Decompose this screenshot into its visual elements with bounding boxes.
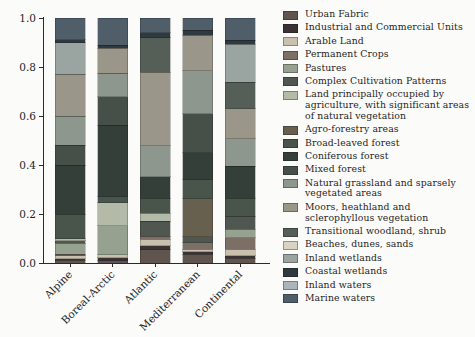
bar-segment (183, 30, 213, 35)
legend-item: Land principally occupied by agriculture… (283, 89, 471, 121)
bar-segment (55, 165, 85, 214)
legend-label: Inland waters (305, 280, 371, 291)
legend-item: Industrial and Commercial Units (283, 22, 471, 33)
bar-segment (183, 249, 213, 252)
legend-label: Beaches, dunes, sands (305, 239, 414, 250)
bar-segment (140, 177, 170, 199)
bar-segment (140, 250, 170, 263)
legend-label: Complex Cultivation Patterns (305, 76, 446, 87)
bar-segment (140, 213, 170, 221)
bar-segment (98, 97, 128, 125)
y-tick-label: 0.6 (19, 110, 36, 122)
x-tick-label: Alpine (41, 268, 74, 301)
bar-segment (225, 249, 255, 255)
legend-item: Marine waters (283, 293, 471, 304)
legend-label: Arable Land (305, 36, 364, 47)
legend-label: Permanent Crops (305, 49, 389, 60)
legend-label: Marine waters (305, 293, 375, 304)
legend-swatch-icon (283, 268, 298, 277)
bar-segment (55, 214, 85, 239)
bar-segment (183, 237, 213, 243)
bar-segment (140, 221, 170, 236)
legend-swatch-icon (283, 228, 298, 237)
bar-segment (183, 35, 213, 71)
legend-swatch-icon (283, 254, 298, 263)
bar-segment (225, 166, 255, 198)
bar-segment (225, 258, 255, 263)
bar-segment (98, 18, 128, 45)
bar-segment (140, 239, 170, 245)
bar-segment (98, 226, 128, 255)
bar-segment (98, 45, 128, 48)
bar-segment (98, 258, 128, 261)
legend-label: Broad-leaved forest (305, 138, 400, 149)
bar-segment (183, 114, 213, 153)
legend-swatch-icon (283, 126, 298, 135)
bar-segment (55, 116, 85, 145)
legend-label: Natural grassland and sparsely vegetated… (305, 178, 471, 200)
bar-segment (55, 239, 85, 241)
bar-segment (225, 44, 255, 82)
bar-segment (225, 198, 255, 216)
bar-segment (140, 18, 170, 33)
legend-item: Complex Cultivation Patterns (283, 76, 471, 87)
bar-segment (183, 243, 213, 250)
bar-segment (183, 153, 213, 180)
legend-swatch-icon (283, 179, 298, 188)
legend-item: Permanent Crops (283, 49, 471, 60)
legend-item: Inland wetlands (283, 253, 471, 264)
legend-swatch-icon (283, 139, 298, 148)
bar-segment (140, 236, 170, 239)
bar-segment (183, 180, 213, 199)
legend-swatch-icon (283, 24, 298, 33)
y-tick-label: 0.0 (19, 257, 36, 269)
bar-segment (140, 33, 170, 38)
bar-segment (98, 125, 128, 197)
bar-segment (225, 256, 255, 258)
bar-segment (183, 199, 213, 237)
bar-segment (98, 73, 128, 97)
chart-plot-area: 0.00.20.40.60.81.0AlpineBoreal-ArcticAtl… (0, 0, 282, 337)
legend-item: Urban Fabric (283, 9, 471, 20)
x-tick-label: Atlantic (121, 268, 160, 307)
bar-segment (55, 145, 85, 165)
y-tick-label: 0.2 (19, 208, 36, 220)
y-tick-label: 1.0 (19, 12, 36, 24)
legend-swatch-icon (283, 51, 298, 60)
legend-item: Pastures (283, 63, 471, 74)
legend-label: Pastures (305, 63, 346, 74)
bar-segment (225, 109, 255, 139)
legend-label: Industrial and Commercial Units (305, 22, 463, 33)
legend-label: Coastal wetlands (305, 266, 387, 277)
bar-segment (140, 72, 170, 145)
legend-swatch-icon (283, 281, 298, 290)
stacked-bar-figure: 0.00.20.40.60.81.0AlpineBoreal-ArcticAtl… (0, 0, 475, 337)
bar-segment (55, 256, 85, 259)
bar-segment (225, 40, 255, 44)
legend-label: Mixed forest (305, 164, 366, 175)
bar-segment (55, 243, 85, 254)
bar-segment (225, 18, 255, 40)
legend-swatch-icon (283, 11, 298, 20)
bar-segment (98, 197, 128, 203)
legend-swatch-icon (283, 152, 298, 161)
legend-item: Inland waters (283, 280, 471, 291)
bar-segment (183, 252, 213, 254)
bar-segment (225, 229, 255, 237)
legend-swatch-icon (283, 166, 298, 175)
bar-segment (225, 139, 255, 167)
bar-segment (140, 198, 170, 213)
legend-swatch-icon (283, 77, 298, 86)
bar-segment (225, 238, 255, 250)
legend-swatch-icon (283, 241, 298, 250)
y-tick-label: 0.4 (19, 159, 36, 171)
legend-label: Agro-forestry areas (305, 124, 399, 135)
legend-swatch-icon (283, 37, 298, 46)
legend-item: Agro-forestry areas (283, 124, 471, 135)
legend-item: Coniferous forest (283, 151, 471, 162)
legend-label: Inland wetlands (305, 253, 382, 264)
legend-item: Arable Land (283, 36, 471, 47)
legend-swatch-icon (283, 91, 298, 100)
bar-segment (98, 255, 128, 258)
bar-segment (225, 82, 255, 108)
